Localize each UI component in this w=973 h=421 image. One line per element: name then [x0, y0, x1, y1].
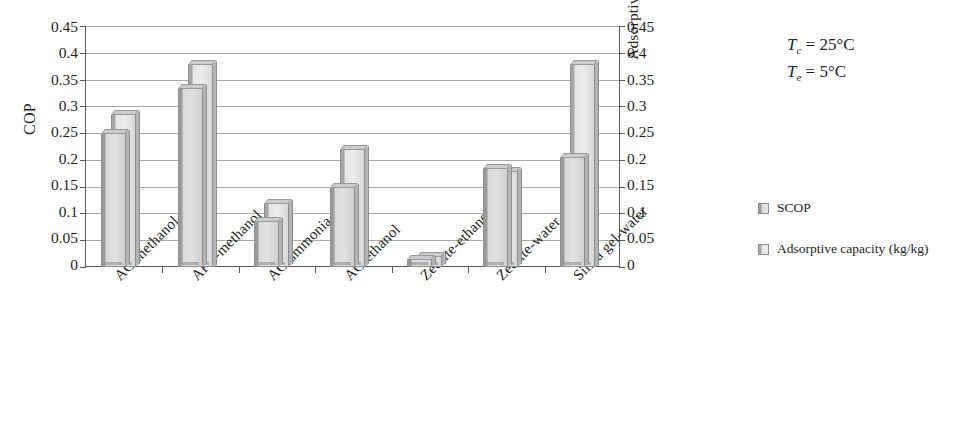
- y-tick-right-4: 0.25: [627, 124, 654, 140]
- bar-side-shade: [279, 218, 283, 266]
- bar-top-cap: [341, 145, 369, 150]
- bar-base-shade: [105, 262, 122, 265]
- legend-label-adsorptive-capacity: Adsorptive capacity (kg/kg): [777, 241, 928, 257]
- bar-side-shade: [508, 165, 512, 267]
- annotation-condenser-temp: Tc = 25°C: [787, 35, 855, 56]
- y-tick-left-8: 0.05: [51, 230, 78, 246]
- annotation-evaporator-temp: Te = 5°C: [787, 62, 846, 83]
- bar-top-cap: [570, 60, 598, 65]
- bar-base-shade: [564, 262, 581, 265]
- bar-side-shade: [365, 146, 369, 267]
- bar-top-cap: [407, 255, 435, 260]
- bar-side-shade: [585, 154, 589, 266]
- y-tick-right-5: 0.2: [627, 151, 646, 167]
- legend-item-scop: SCOP: [758, 200, 928, 216]
- bar-face: [254, 221, 279, 267]
- y-tick-left-3: 0.3: [59, 98, 78, 114]
- bar-side-shade: [203, 84, 207, 266]
- bar-face: [101, 133, 126, 267]
- chart-figure: COP 0.45 0.4 0.35 0.3 0.25 0.2 0.15 0.1 …: [0, 0, 973, 421]
- y-tick-left-1: 0.4: [59, 45, 78, 61]
- bar-scop: [101, 133, 126, 267]
- bar-top-cap: [331, 183, 359, 188]
- bar-side-shade: [136, 111, 140, 266]
- bar-face: [560, 157, 585, 267]
- bar-side-shade: [595, 60, 599, 266]
- y-tick-right-6: 0.15: [627, 177, 654, 193]
- bar-base-shade: [487, 262, 504, 265]
- bar-top-cap: [254, 217, 282, 222]
- y-tick-right-3: 0.3: [627, 98, 646, 114]
- chart-legend: SCOP Adsorptive capacity (kg/kg): [758, 200, 928, 282]
- bar-top-cap: [111, 110, 139, 115]
- bar-face: [483, 168, 508, 267]
- x-axis-category-labels: AC-methanolAFC-methanolAC-ammoniaAC-etha…: [85, 272, 620, 392]
- legend-label-scop: SCOP: [777, 200, 811, 216]
- y-tick-left-2: 0.35: [51, 72, 78, 88]
- legend-item-adsorptive-capacity: Adsorptive capacity (kg/kg): [758, 241, 928, 257]
- tick-mark-right: [619, 267, 625, 268]
- bar-scop: [407, 259, 432, 267]
- bar-side-shade: [518, 167, 522, 266]
- bar-top-cap: [178, 84, 206, 89]
- tick-mark-left: [80, 267, 86, 268]
- bar-top-cap: [264, 199, 292, 204]
- legend-swatch-icon-adsorptive-capacity: [758, 244, 769, 255]
- y-axis-title-left: COP: [21, 59, 39, 179]
- bar-top-cap: [483, 164, 511, 169]
- y-tick-right-2: 0.35: [627, 72, 654, 88]
- bar-base-shade: [258, 262, 275, 265]
- bar-top-cap: [101, 129, 129, 134]
- y-tick-left-9: 0: [70, 257, 78, 273]
- bar-face: [330, 187, 355, 267]
- bar-scop: [178, 88, 203, 267]
- y-tick-left-7: 0.1: [59, 204, 78, 220]
- bar-face: [178, 88, 203, 267]
- y-tick-left-5: 0.2: [59, 151, 78, 167]
- bar-side-shade: [289, 199, 293, 266]
- bar-side-shade: [355, 183, 359, 266]
- bar-base-shade: [411, 262, 428, 265]
- bar-side-shade: [213, 60, 217, 266]
- bar-scop: [560, 157, 585, 267]
- bar-top-cap: [188, 60, 216, 65]
- y-tick-left-6: 0.15: [51, 177, 78, 193]
- bar-scop: [483, 168, 508, 267]
- annotation-value-tc: = 25°C: [801, 35, 854, 54]
- bar-scop: [330, 187, 355, 267]
- y-tick-right-9: 0: [627, 257, 635, 273]
- bar-side-shade: [126, 130, 130, 267]
- bar-base-shade: [182, 262, 199, 265]
- y-tick-left-0: 0.45: [51, 19, 78, 35]
- bar-base-shade: [334, 262, 351, 265]
- annotation-value-te: = 5°C: [801, 62, 846, 81]
- bar-top-cap: [560, 153, 588, 158]
- legend-swatch-icon-scop: [758, 203, 769, 214]
- bar-scop: [254, 221, 279, 267]
- y-tick-left-4: 0.25: [51, 124, 78, 140]
- y-axis-title-right: Adsorptive capacity (kg/kg): [624, 0, 642, 60]
